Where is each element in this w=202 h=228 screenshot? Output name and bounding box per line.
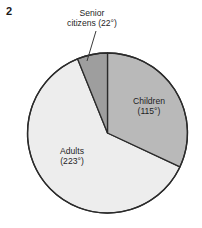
slice-label-children-line1: Children bbox=[118, 96, 180, 106]
slice-label-adults-line2: (223°) bbox=[41, 156, 103, 166]
slice-label-adults-line1: Adults bbox=[41, 146, 103, 156]
slice-label-children: Children (115°) bbox=[118, 96, 180, 117]
slice-label-senior-citizens: Senior citizens (22°) bbox=[51, 8, 133, 29]
figure-container: 2 Senior citizens (22°) Children (115°) … bbox=[0, 0, 202, 228]
slice-label-senior-citizens-line1: Senior bbox=[51, 8, 133, 18]
slice-label-senior-citizens-line2: citizens (22°) bbox=[51, 18, 133, 28]
slice-label-children-line2: (115°) bbox=[118, 106, 180, 116]
slice-label-adults: Adults (223°) bbox=[41, 146, 103, 167]
